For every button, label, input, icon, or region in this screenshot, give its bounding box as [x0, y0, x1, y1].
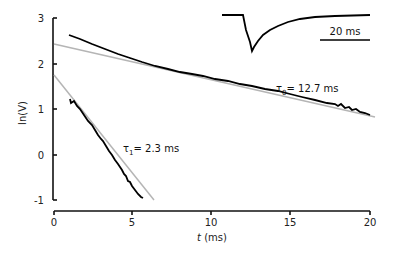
y-tick-label: -1 [34, 195, 44, 206]
y-tick-label: 0 [38, 150, 44, 161]
tau0-annotation: τ0= 12.7 ms [276, 83, 338, 97]
x-tick-label: 15 [284, 217, 297, 228]
y-axis: 3 2 1 0 -1 ln(V) [17, 13, 57, 206]
x-axis: 0 5 10 15 20 t (ms) [51, 211, 377, 243]
x-tick-label: 20 [364, 217, 377, 228]
tau1-annotation: τ1= 2.3 ms [123, 143, 179, 157]
x-tick-label: 5 [129, 217, 135, 228]
slow-fit-line [54, 44, 375, 117]
fast-fit-line [54, 75, 154, 200]
scale-bar-label: 20 ms [330, 26, 361, 37]
x-tick-label: 0 [51, 217, 57, 228]
chart: 3 2 1 0 -1 ln(V) 0 5 10 15 20 t (ms) τ0=… [0, 0, 396, 253]
y-tick-label: 1 [38, 104, 44, 115]
x-axis-label: t (ms) [197, 232, 227, 243]
y-tick-label: 3 [38, 13, 44, 24]
slow-data-trace [69, 35, 370, 115]
x-tick-label: 10 [205, 217, 218, 228]
inset-current-trace: 20 ms [222, 15, 370, 51]
y-axis-label: ln(V) [17, 101, 28, 125]
y-tick-label: 2 [38, 59, 44, 70]
